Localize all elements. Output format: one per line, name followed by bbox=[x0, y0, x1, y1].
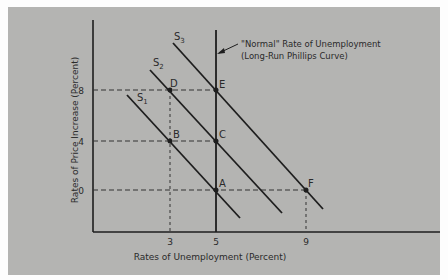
point-label-f: F bbox=[308, 178, 314, 189]
curve-label-s1: S1 bbox=[137, 92, 148, 106]
curve-s3 bbox=[173, 43, 323, 209]
phillips-curve-chart: A B C D E F S1 S2 S3 "Normal" Rate of Un… bbox=[0, 0, 448, 280]
curve-label-s2: S2 bbox=[153, 57, 164, 71]
x-tick-3: 3 bbox=[167, 237, 173, 247]
curve-label-s3: S3 bbox=[174, 31, 185, 45]
annotation-line-2: (Long-Run Phillips Curve) bbox=[241, 51, 348, 61]
y-axis-label: Rates of Price Increase (Percent) bbox=[70, 57, 80, 203]
x-axis-label: Rates of Unemployment (Percent) bbox=[134, 252, 287, 262]
annotation-line-1: "Normal" Rate of Unemployment bbox=[241, 39, 381, 49]
guide-lines bbox=[93, 90, 306, 232]
x-tick-9: 9 bbox=[303, 237, 309, 247]
point-label-a: A bbox=[219, 178, 226, 189]
x-tick-5: 5 bbox=[213, 237, 219, 247]
point-label-c: C bbox=[219, 129, 226, 140]
data-points bbox=[168, 88, 309, 193]
point-label-d: D bbox=[170, 78, 178, 89]
curve-s1 bbox=[127, 95, 240, 218]
point-label-e: E bbox=[219, 79, 225, 90]
point-label-b: B bbox=[173, 129, 180, 140]
